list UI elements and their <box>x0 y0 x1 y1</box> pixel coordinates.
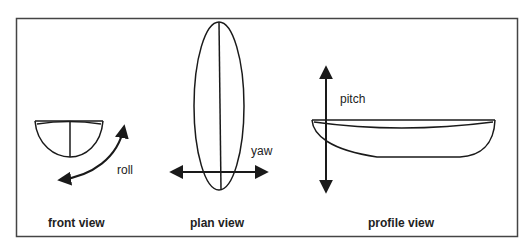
plan-view-caption: plan view <box>190 216 245 230</box>
front-view: roll front view <box>35 121 133 230</box>
yaw-label: yaw <box>251 144 273 158</box>
boat-motion-diagram: roll front view yaw plan view pitch prof… <box>0 0 531 250</box>
plan-centerline <box>219 22 221 190</box>
plan-view: yaw plan view <box>172 22 273 230</box>
roll-label: roll <box>117 163 133 177</box>
front-view-caption: front view <box>48 216 105 230</box>
profile-view-caption: profile view <box>368 216 435 230</box>
pitch-label: pitch <box>340 92 365 106</box>
front-hull-shape <box>35 121 103 157</box>
profile-view: pitch profile view <box>312 68 495 230</box>
profile-hull-shape <box>312 120 495 157</box>
